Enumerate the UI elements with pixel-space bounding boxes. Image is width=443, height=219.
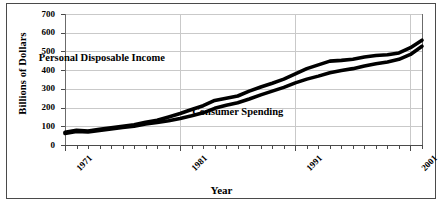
x-tick-minor (376, 145, 377, 149)
plot-right-edge (422, 14, 423, 145)
x-tick-minor (341, 145, 342, 149)
y-tick-label: 700 (25, 10, 55, 19)
x-tick-minor (364, 145, 365, 149)
x-tick-major (295, 145, 296, 151)
x-tick-minor (318, 145, 319, 149)
x-tick-minor (238, 145, 239, 149)
x-tick-minor (123, 145, 124, 149)
x-tick-minor (192, 145, 193, 149)
x-tick-minor (284, 145, 285, 149)
x-tick-minor (134, 145, 135, 149)
y-tick-label: 600 (25, 28, 55, 37)
series-annotation: Personal Disposable Income (39, 52, 165, 63)
x-axis-line (65, 145, 422, 146)
x-tick-minor (111, 145, 112, 149)
x-tick-minor (422, 145, 423, 149)
x-tick-minor (261, 145, 262, 149)
x-tick-minor (353, 145, 354, 149)
x-tick-minor (88, 145, 89, 149)
x-tick-minor (169, 145, 170, 149)
series-annotation: Consumer Spending (192, 106, 283, 117)
x-tick-minor (226, 145, 227, 149)
y-tick-label: 200 (25, 103, 55, 112)
x-tick-minor (399, 145, 400, 149)
chart-figure: Billions of Dollars Year 010020030040050… (0, 0, 443, 219)
x-tick-minor (146, 145, 147, 149)
y-tick-label: 300 (25, 84, 55, 93)
x-tick-major (410, 145, 411, 151)
y-tick-label: 100 (25, 122, 55, 131)
x-tick-minor (77, 145, 78, 149)
x-tick-minor (100, 145, 101, 149)
x-tick-minor (157, 145, 158, 149)
y-tick-label: 0 (25, 141, 55, 150)
x-tick-minor (330, 145, 331, 149)
x-axis-title: Year (0, 184, 443, 196)
x-tick-minor (203, 145, 204, 149)
x-tick-minor (215, 145, 216, 149)
plot-area: 0100200300400500600700 (65, 14, 422, 145)
x-tick-minor (272, 145, 273, 149)
x-tick-minor (387, 145, 388, 149)
x-tick-minor (307, 145, 308, 149)
x-tick-minor (249, 145, 250, 149)
x-tick-major (65, 145, 66, 151)
x-tick-major (180, 145, 181, 151)
data-series-lines (65, 14, 422, 145)
y-tick-label: 400 (25, 66, 55, 75)
